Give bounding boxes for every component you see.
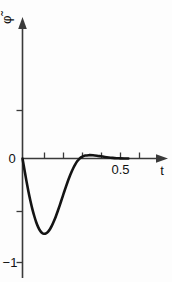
- x-axis-title: t: [160, 163, 164, 178]
- x-axis: [23, 153, 169, 163]
- y-tick-label-minus-1: −1: [3, 255, 18, 270]
- y-axis-title: φ̃: [0, 11, 14, 24]
- figure-panel: 0 −1 0.5 t φ̃: [0, 0, 172, 282]
- y-axis-title-group: φ̃: [0, 11, 14, 24]
- plot-canvas: 0 −1 0.5 t φ̃: [0, 0, 172, 282]
- x-tick-label-0p5: 0.5: [111, 162, 129, 177]
- y-axis-arrow-head: [18, 17, 27, 29]
- x-axis-arrow-head: [156, 154, 168, 162]
- y-axis: [17, 17, 27, 278]
- y-tick-label-0: 0: [8, 151, 15, 166]
